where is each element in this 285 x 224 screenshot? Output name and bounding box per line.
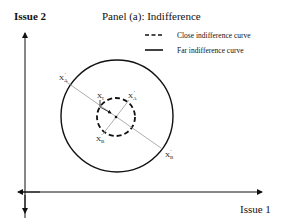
y-axis-label: Issue 2 — [14, 10, 47, 22]
label-xa-close: XA' — [128, 90, 137, 101]
legend-far-label: Far indifference curve — [177, 46, 244, 55]
label-xb-far: XB' — [165, 149, 174, 160]
panel-title: Panel (a): Indifference — [102, 10, 201, 23]
indifference-diagram: Issue 2 Issue 1 Panel (a): Indifference … — [0, 0, 285, 224]
contract-line-far — [65, 81, 161, 148]
label-xb-close: XB' — [96, 133, 105, 144]
label-xa-far: XA' — [59, 72, 68, 83]
x-axis-label: Issue 1 — [240, 203, 271, 215]
label-xi: XI — [97, 92, 104, 101]
axes — [18, 33, 262, 218]
ideal-point — [115, 116, 118, 119]
legend: Close indifference curve Far indifferenc… — [145, 31, 251, 55]
legend-close-label: Close indifference curve — [177, 31, 251, 40]
